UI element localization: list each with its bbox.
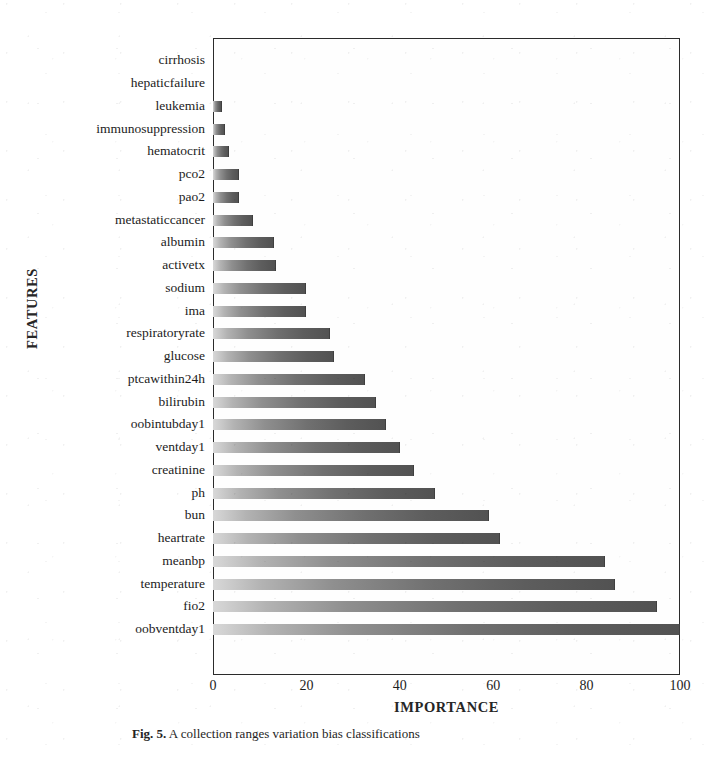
bar-row xyxy=(213,277,680,300)
bar-fio2 xyxy=(213,601,657,612)
x-tick-label-20: 20 xyxy=(299,678,313,694)
bar-metastaticcancer xyxy=(213,215,253,226)
bar-row xyxy=(213,209,680,232)
bar-ptcawithin24h xyxy=(213,374,365,385)
y-tick-label-sodium: sodium xyxy=(8,277,213,300)
bar-pco2 xyxy=(213,169,239,180)
x-tick-label-80: 80 xyxy=(580,678,594,694)
y-tick-label-meanbp: meanbp xyxy=(8,550,213,573)
bar-oobintubday1 xyxy=(213,419,386,430)
y-tick-label-immunosuppression: immunosuppression xyxy=(8,118,213,141)
bar-row xyxy=(213,163,680,186)
bar-row xyxy=(213,413,680,436)
x-axis-title: IMPORTANCE xyxy=(213,699,680,716)
y-tick-label-glucose: glucose xyxy=(8,345,213,368)
y-tick-label-activetx: activetx xyxy=(8,254,213,277)
bar-immunosuppression xyxy=(213,124,225,135)
y-tick-label-ptcawithin24h: ptcawithin24h xyxy=(8,368,213,391)
bar-row xyxy=(213,322,680,345)
y-tick-label-hematocrit: hematocrit xyxy=(8,140,213,163)
bar-row xyxy=(213,504,680,527)
bar-pao2 xyxy=(213,192,239,203)
y-tick-label-heartrate: heartrate xyxy=(8,527,213,550)
bar-row xyxy=(213,550,680,573)
y-tick-label-ventday1: ventday1 xyxy=(8,436,213,459)
y-tick-label-bilirubin: bilirubin xyxy=(8,391,213,414)
bar-row xyxy=(213,482,680,505)
x-tick-label-0: 0 xyxy=(210,678,217,694)
bar-row xyxy=(213,436,680,459)
caption-label: Fig. 5. xyxy=(132,726,166,741)
bar-activetx xyxy=(213,260,276,271)
bars-layer xyxy=(213,38,680,675)
y-tick-label-creatinine: creatinine xyxy=(8,459,213,482)
bar-row xyxy=(213,231,680,254)
y-tick-label-ph: ph xyxy=(8,482,213,505)
bar-hematocrit xyxy=(213,146,229,157)
y-tick-label-albumin: albumin xyxy=(8,231,213,254)
y-tick-label-oobventday1: oobventday1 xyxy=(8,618,213,641)
y-tick-label-bun: bun xyxy=(8,504,213,527)
y-axis-tick-labels: cirrhosishepaticfailureleukemiaimmunosup… xyxy=(0,38,213,675)
bar-row xyxy=(213,345,680,368)
bar-creatinine xyxy=(213,465,414,476)
x-tick-label-60: 60 xyxy=(486,678,500,694)
figure-container: FEATURES cirrhosishepaticfailureleukemia… xyxy=(0,0,719,761)
y-tick-label-ima: ima xyxy=(8,300,213,323)
bar-bun xyxy=(213,510,489,521)
bar-ventday1 xyxy=(213,442,400,453)
bar-row xyxy=(213,595,680,618)
y-tick-label-pco2: pco2 xyxy=(8,163,213,186)
bar-sodium xyxy=(213,283,306,294)
bar-respiratoryrate xyxy=(213,328,330,339)
bar-bilirubin xyxy=(213,397,376,408)
bar-leukemia xyxy=(213,101,222,112)
bar-row xyxy=(213,95,680,118)
y-tick-label-hepaticfailure: hepaticfailure xyxy=(8,72,213,95)
caption-text: A collection ranges variation bias class… xyxy=(169,726,420,741)
bar-glucose xyxy=(213,351,334,362)
x-axis-tick-labels: 020406080100 xyxy=(213,678,680,698)
figure-caption: Fig. 5. A collection ranges variation bi… xyxy=(132,726,692,742)
bar-ima xyxy=(213,306,306,317)
bar-row xyxy=(213,254,680,277)
bar-heartrate xyxy=(213,533,500,544)
bar-ph xyxy=(213,488,435,499)
y-tick-label-pao2: pao2 xyxy=(8,186,213,209)
x-tick-label-40: 40 xyxy=(393,678,407,694)
bar-row xyxy=(213,527,680,550)
bar-row xyxy=(213,118,680,141)
y-tick-label-respiratoryrate: respiratoryrate xyxy=(8,322,213,345)
y-tick-label-temperature: temperature xyxy=(8,573,213,596)
bar-row xyxy=(213,368,680,391)
bar-oobventday1 xyxy=(213,624,680,635)
y-tick-label-metastaticcancer: metastaticcancer xyxy=(8,209,213,232)
bar-row xyxy=(213,618,680,641)
bar-row xyxy=(213,300,680,323)
bar-row xyxy=(213,391,680,414)
bar-meanbp xyxy=(213,556,605,567)
y-tick-label-leukemia: leukemia xyxy=(8,95,213,118)
bar-row xyxy=(213,186,680,209)
bar-row xyxy=(213,49,680,72)
y-tick-label-fio2: fio2 xyxy=(8,595,213,618)
bar-row xyxy=(213,459,680,482)
bar-albumin xyxy=(213,237,274,248)
y-tick-label-oobintubday1: oobintubday1 xyxy=(8,413,213,436)
bar-row xyxy=(213,140,680,163)
bar-temperature xyxy=(213,579,615,590)
bar-row xyxy=(213,72,680,95)
y-tick-label-cirrhosis: cirrhosis xyxy=(8,49,213,72)
x-tick-label-100: 100 xyxy=(670,678,691,694)
bar-row xyxy=(213,573,680,596)
